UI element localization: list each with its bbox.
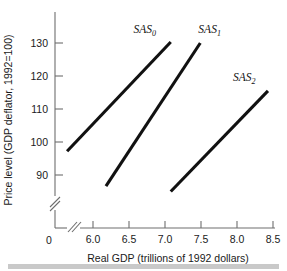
curve-label-sas0: SAS0 (134, 23, 157, 38)
x-tick-label: 6.5 (122, 233, 137, 245)
chart-figure: 90100110120130 6.06.57.07.58.08.5 0 SAS0… (0, 0, 287, 271)
y-tick-label: 120 (30, 70, 48, 82)
x-tick-label: 6.0 (86, 233, 101, 245)
curve-label-text: SAS (134, 23, 153, 35)
sas-curve-sas1 (106, 43, 200, 186)
curve-label-subscript: 2 (251, 77, 255, 86)
curve-label-sas2: SAS2 (233, 71, 256, 86)
footer-divider-bar (8, 264, 279, 269)
chart-svg: 90100110120130 6.06.57.07.58.08.5 0 SAS0… (0, 0, 287, 271)
x-axis-break-mark-1 (68, 222, 77, 232)
sas-curve-sas0 (67, 42, 171, 151)
chart-curves (67, 42, 268, 191)
curve-label-sas1: SAS1 (198, 23, 221, 38)
x-axis-origin-label: 0 (46, 234, 52, 246)
x-axis-break-mark-2 (72, 222, 81, 232)
x-tick-label: 8.0 (230, 233, 245, 245)
curve-label-subscript: 0 (152, 29, 156, 38)
x-tick-label: 7.0 (158, 233, 173, 245)
x-tick-label: 7.5 (194, 233, 209, 245)
sas-curve-sas2 (171, 91, 268, 192)
y-tick-label: 100 (30, 136, 48, 148)
x-axis-ticks: 6.06.57.07.58.08.5 (86, 221, 281, 245)
x-tick-label: 8.5 (266, 233, 281, 245)
x-axis-title: Real GDP (trillions of 1992 dollars) (87, 252, 248, 264)
y-tick-label: 130 (30, 37, 48, 49)
curve-label-text: SAS (233, 71, 252, 83)
y-tick-label: 90 (36, 169, 48, 181)
curve-label-text: SAS (198, 23, 217, 35)
y-axis-title: Price level (GDP deflator, 1992=100) (2, 34, 14, 205)
y-tick-label: 110 (31, 103, 48, 115)
y-axis-ticks: 90100110120130 (30, 37, 63, 181)
curve-label-subscript: 1 (217, 29, 221, 38)
